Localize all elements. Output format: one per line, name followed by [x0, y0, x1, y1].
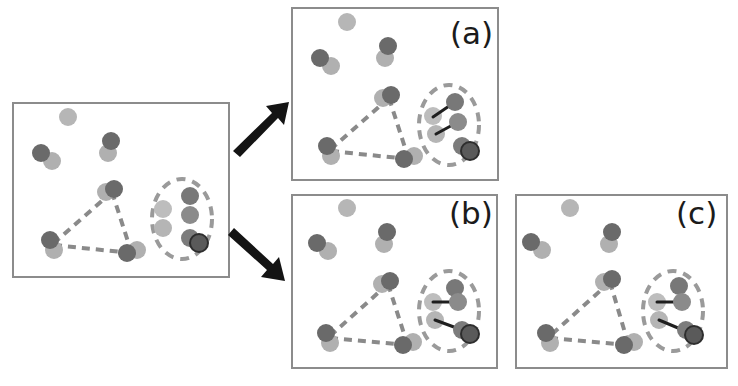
node-c-tri-node-top-dark — [603, 270, 621, 288]
node-source-free-node-top — [59, 108, 77, 126]
node-b-tri-node-top-dark — [381, 272, 399, 290]
node-b-tri-node-left-dark — [317, 324, 335, 342]
node-b-free-node-top — [338, 199, 356, 217]
node-a-free-node-mid-dark — [379, 37, 397, 55]
node-c-free-node-top — [561, 199, 579, 217]
node-source-cluster-node-b — [154, 200, 172, 218]
node-c-cluster-node-a — [670, 277, 688, 295]
node-b-free-node-mid-dark — [378, 223, 396, 241]
node-c-free-node-mid-dark — [603, 223, 621, 241]
node-a-free-node-top — [338, 13, 356, 31]
node-b-cluster-node-f — [461, 325, 479, 343]
arrow-to-panel-b — [228, 228, 285, 281]
figure-root: (a)(b)(c) — [0, 0, 738, 386]
node-source-cluster-node-d — [154, 219, 172, 237]
panel-label-c: (c) — [676, 198, 717, 229]
node-source-free-node-left-dark — [32, 144, 50, 162]
node-source-cluster-node-c — [181, 206, 199, 224]
node-b-free-node-left-dark — [308, 234, 326, 252]
node-source-tri-node-right-dark — [118, 244, 136, 262]
panel-source — [13, 103, 229, 277]
node-source-cluster-node-a — [181, 187, 199, 205]
arrow-to-panel-a — [233, 102, 289, 157]
node-c-cluster-node-c — [673, 293, 691, 311]
node-source-free-node-mid-dark — [102, 132, 120, 150]
node-c-tri-node-left-dark — [537, 324, 555, 342]
node-source-tri-node-top-dark — [105, 180, 123, 198]
diagram-canvas — [0, 0, 738, 386]
node-a-cluster-node-f — [461, 142, 479, 160]
node-a-tri-node-right-dark — [395, 150, 413, 168]
node-c-cluster-node-f — [685, 326, 703, 344]
panel-label-a: (a) — [450, 18, 493, 49]
node-c-tri-node-right-dark — [615, 336, 633, 354]
node-a-tri-node-left-dark — [318, 137, 336, 155]
node-source-cluster-node-f — [190, 234, 208, 252]
node-c-free-node-left-dark — [522, 233, 540, 251]
node-b-cluster-node-c — [449, 293, 467, 311]
node-a-free-node-left-dark — [311, 49, 329, 67]
node-a-tri-node-top-dark — [382, 86, 400, 104]
node-a-cluster-node-a — [446, 93, 464, 111]
node-a-cluster-node-c — [449, 113, 467, 131]
panel-label-b: (b) — [449, 198, 493, 229]
node-b-tri-node-right-dark — [394, 336, 412, 354]
node-source-tri-node-left-dark — [41, 231, 59, 249]
